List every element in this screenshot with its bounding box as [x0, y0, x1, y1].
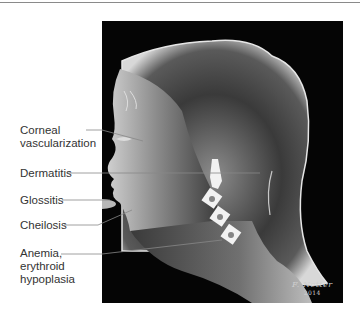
- label-text: Corneal: [20, 124, 96, 137]
- head-profile-illustration: [102, 21, 343, 303]
- label-text: Cheilosis: [20, 219, 67, 232]
- illustration-panel: [102, 21, 343, 303]
- signature-name: F. Netter: [292, 280, 333, 289]
- label-cheilosis: Cheilosis: [20, 219, 67, 232]
- artist-signature: F. Netter 2014: [292, 280, 333, 296]
- label-text: erythroid: [20, 260, 75, 273]
- label-text: vascularization: [20, 137, 96, 150]
- label-anemia-erythroid-hypoplasia: Anemia, erythroid hypoplasia: [20, 247, 75, 286]
- label-text: Glossitis: [20, 194, 63, 207]
- tongue-shape: [102, 199, 116, 209]
- label-corneal-vascularization: Corneal vascularization: [20, 124, 96, 150]
- label-text: Anemia,: [20, 247, 75, 260]
- signature-year: 2014: [292, 289, 333, 296]
- label-text: Dermatitis: [20, 167, 72, 180]
- label-glossitis: Glossitis: [20, 194, 63, 207]
- top-rule: [0, 2, 360, 3]
- label-dermatitis: Dermatitis: [20, 167, 72, 180]
- label-text: hypoplasia: [20, 273, 75, 286]
